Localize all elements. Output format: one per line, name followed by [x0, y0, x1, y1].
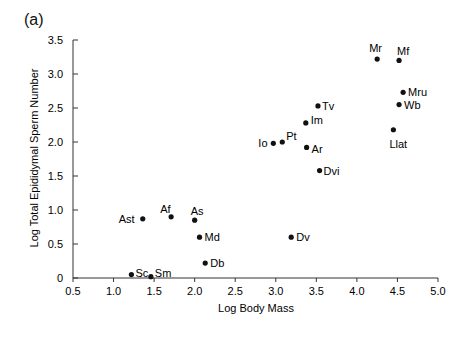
x-axis-label: Log Body Mass	[218, 302, 294, 314]
point-label: Pt	[286, 130, 296, 142]
point-label: Md	[205, 231, 220, 243]
data-point	[203, 260, 208, 265]
x-tick-label: 4.0	[349, 285, 364, 297]
data-point	[289, 235, 294, 240]
point-label: Mr	[369, 42, 382, 54]
point-label: Tv	[322, 100, 335, 112]
point-label: Db	[210, 257, 224, 269]
y-tick-label: 1.0	[48, 204, 63, 216]
point-label: Mf	[397, 45, 410, 57]
y-tick-label: 0.5	[48, 238, 63, 250]
x-tick-label: 4.5	[390, 285, 405, 297]
point-label: Af	[160, 203, 171, 215]
x-tick-label: 2.0	[187, 285, 202, 297]
y-tick-label: 3.5	[48, 34, 63, 46]
scatter-chart: 0.51.01.52.02.53.03.54.04.55.000.51.01.5…	[0, 0, 470, 337]
point-label: Ast	[119, 213, 135, 225]
data-point	[375, 56, 380, 61]
y-axis-label: Log Total Epididymal Sperm Number	[28, 68, 40, 247]
x-tick-label: 1.5	[146, 285, 161, 297]
point-label: Wb	[404, 99, 421, 111]
data-point	[315, 103, 320, 108]
data-point	[169, 214, 174, 219]
data-point	[148, 274, 153, 279]
data-point	[192, 218, 197, 223]
point-label: Sm	[155, 267, 172, 279]
data-point	[396, 58, 401, 63]
point-label: Dvi	[324, 165, 340, 177]
data-point	[303, 120, 308, 125]
point-label: Io	[258, 137, 267, 149]
x-tick-label: 0.5	[65, 285, 80, 297]
x-tick-label: 2.5	[228, 285, 243, 297]
data-point	[271, 141, 276, 146]
data-points: ScSmAstAfAsMdDbDvIoPtImTvArDviMrMfMruWbL…	[119, 42, 427, 279]
data-point	[391, 127, 396, 132]
y-tick-label: 3.0	[48, 68, 63, 80]
x-tick-label: 3.0	[268, 285, 283, 297]
x-tick-label: 5.0	[430, 285, 445, 297]
y-tick-label: 0	[57, 272, 63, 284]
y-tick-label: 2.0	[48, 136, 63, 148]
x-tick-label: 3.5	[309, 285, 324, 297]
data-point	[197, 235, 202, 240]
point-label: Ar	[312, 143, 323, 155]
point-label: As	[191, 205, 204, 217]
data-point	[140, 216, 145, 221]
data-point	[280, 139, 285, 144]
data-point	[129, 272, 134, 277]
point-label: Mru	[408, 86, 427, 98]
axes: 0.51.01.52.02.53.03.54.04.55.000.51.01.5…	[48, 34, 446, 297]
y-tick-label: 1.5	[48, 170, 63, 182]
x-tick-label: 1.0	[106, 285, 121, 297]
point-label: Llat	[389, 138, 407, 150]
y-tick-label: 2.5	[48, 102, 63, 114]
data-point	[401, 90, 406, 95]
data-point	[317, 168, 322, 173]
data-point	[396, 102, 401, 107]
point-label: Dv	[296, 231, 310, 243]
point-label: Sc	[135, 267, 148, 279]
data-point	[304, 145, 309, 150]
point-label: Im	[311, 114, 323, 126]
